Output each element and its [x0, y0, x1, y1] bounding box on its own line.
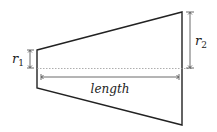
length-label: length [91, 82, 130, 96]
r2-label: r2 [195, 33, 207, 50]
r1-label: r1 [12, 51, 24, 68]
r2-dimension [186, 12, 194, 68]
frustum-diagram: r1 r2 length [0, 0, 217, 132]
length-dimension [41, 74, 179, 80]
r1-dimension [27, 50, 34, 68]
